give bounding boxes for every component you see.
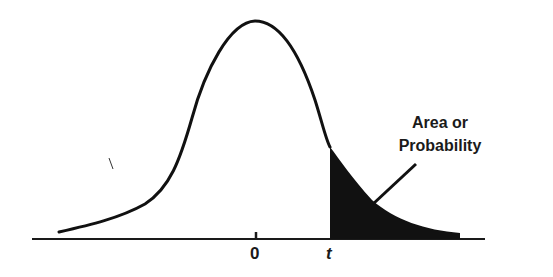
density-curve: [59, 21, 330, 232]
area-label: Area or Probability: [385, 111, 495, 157]
leader-line: [373, 164, 416, 204]
area-label-line2: Probability: [385, 134, 495, 157]
shaded-tail-area: [330, 147, 460, 239]
t-tick-label: t: [326, 244, 332, 264]
stray-mark: [109, 158, 113, 169]
zero-tick-label: 0: [250, 244, 259, 264]
area-label-line1: Area or: [385, 111, 495, 134]
